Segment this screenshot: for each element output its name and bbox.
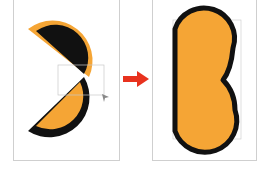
bottom-semicircle bbox=[28, 77, 90, 137]
after-shape bbox=[153, 0, 258, 162]
top-semicircle bbox=[28, 21, 93, 77]
arrow-right-icon bbox=[123, 71, 149, 87]
b-shape bbox=[175, 8, 237, 152]
before-panel bbox=[13, 0, 120, 161]
cursor-icon bbox=[102, 94, 109, 102]
after-panel bbox=[152, 0, 257, 161]
before-shapes bbox=[14, 0, 121, 162]
